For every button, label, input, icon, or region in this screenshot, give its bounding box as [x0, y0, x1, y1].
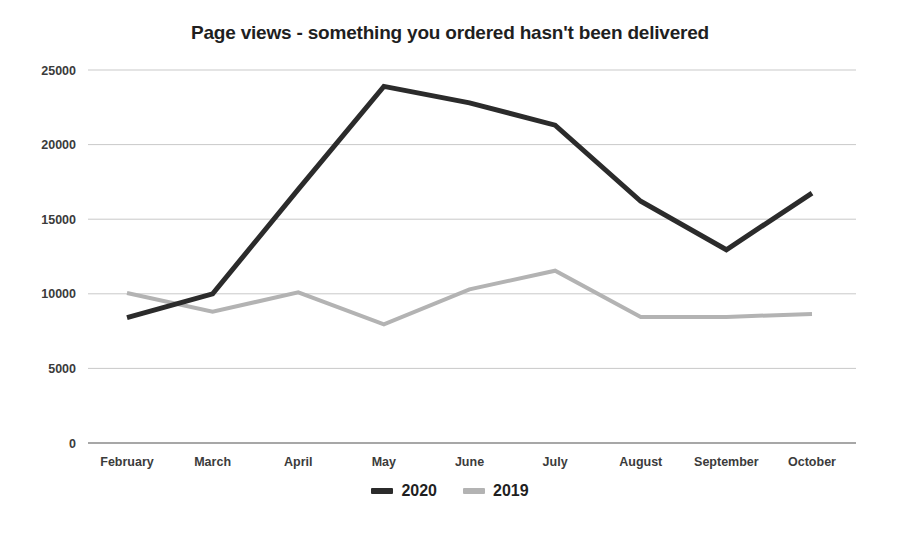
series-line-2019: [127, 271, 812, 325]
x-axis-tick-label: February: [100, 455, 154, 469]
x-axis-tick-label: October: [788, 455, 836, 469]
x-axis-tick-label: July: [543, 455, 568, 469]
series-line-2020: [127, 86, 812, 317]
y-axis-tick-label: 15000: [41, 213, 76, 227]
legend-swatch-icon-2019: [463, 488, 485, 494]
y-axis-tick-labels: 0500010000150002000025000: [41, 64, 76, 451]
y-axis-tick-label: 0: [69, 437, 76, 451]
x-axis-tick-labels: FebruaryMarchAprilMayJuneJulyAugustSepte…: [100, 455, 836, 469]
data-series-group: [127, 86, 812, 324]
legend-swatch-icon-2020: [371, 488, 393, 494]
legend-label-2020: 2020: [401, 482, 437, 500]
line-chart-plot: 0500010000150002000025000 FebruaryMarchA…: [0, 0, 900, 536]
x-axis-tick-label: September: [694, 455, 759, 469]
chart-container: Page views - something you ordered hasn'…: [0, 0, 900, 536]
gridlines-group: [88, 70, 856, 368]
legend-label-2019: 2019: [493, 482, 529, 500]
legend-item-2019[interactable]: 2019: [463, 482, 529, 500]
chart-legend: 2020 2019: [0, 482, 900, 500]
x-axis-tick-label: August: [619, 455, 663, 469]
x-axis-tick-label: May: [372, 455, 396, 469]
y-axis-tick-label: 20000: [41, 138, 76, 152]
y-axis-tick-label: 10000: [41, 287, 76, 301]
x-axis-tick-label: March: [194, 455, 231, 469]
y-axis-tick-label: 5000: [48, 362, 76, 376]
x-axis-tick-label: April: [284, 455, 312, 469]
y-axis-tick-label: 25000: [41, 64, 76, 78]
x-axis-tick-label: June: [455, 455, 484, 469]
legend-item-2020[interactable]: 2020: [371, 482, 437, 500]
